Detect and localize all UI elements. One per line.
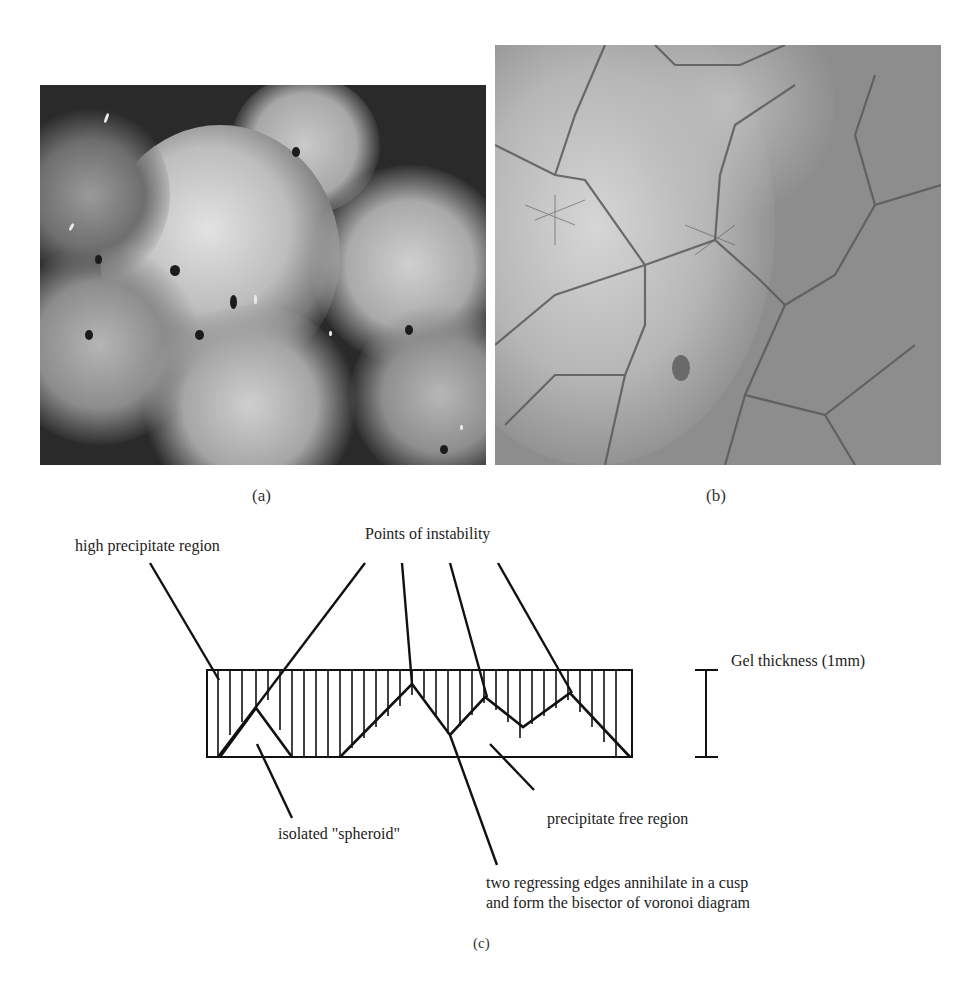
- label-points-of-instability: Points of instability: [365, 525, 490, 543]
- label-isolated-spheroid: isolated "spheroid": [278, 825, 400, 843]
- label-gel-thickness: Gel thickness (1mm): [731, 652, 865, 670]
- label-cusp-line-2: and form the bisector of voronoi diagram: [486, 894, 750, 912]
- caption-c: (c): [473, 935, 490, 952]
- label-cusp-line-1: two regressing edges annihilate in a cus…: [486, 874, 748, 892]
- gel-cross-section-diagram: [0, 0, 973, 989]
- label-precipitate-free-region: precipitate free region: [547, 810, 688, 828]
- label-high-precipitate-region: high precipitate region: [75, 537, 220, 555]
